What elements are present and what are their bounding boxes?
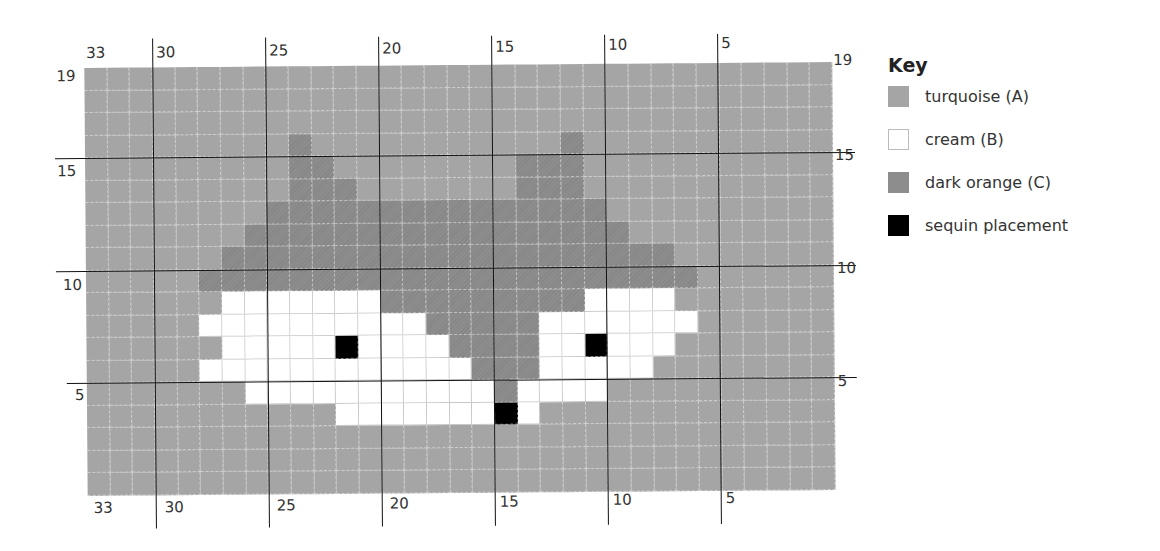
chart-cell: [787, 62, 810, 85]
chart-cell: [494, 290, 517, 313]
chart-cell: [178, 427, 201, 450]
chart-cell: [266, 134, 289, 157]
chart-cell: [200, 337, 223, 360]
chart-cell: [426, 223, 449, 246]
chart-cell: [427, 448, 450, 471]
chart-cell: [152, 67, 175, 90]
chart-cell: [155, 360, 178, 383]
chart-cell: [336, 404, 359, 427]
col-label-top-10: 10: [608, 38, 627, 53]
chart-cell: [584, 176, 607, 199]
chart-cell: [608, 334, 631, 357]
chart-cell: [154, 338, 177, 361]
chart-cell: [811, 220, 834, 243]
chart-cell: [402, 88, 425, 111]
chart-cell: [223, 360, 246, 383]
chart-cell: [742, 130, 765, 153]
chart-cell: [108, 158, 131, 181]
chart-cell: [698, 266, 721, 289]
chart-cell: [130, 112, 153, 135]
chart-cell: [517, 335, 540, 358]
col-label-bottom-33: 33: [94, 501, 113, 516]
chart-cell: [790, 400, 813, 423]
chart-cell: [246, 427, 269, 450]
chart-cell: [767, 468, 790, 491]
chart-cell: [721, 311, 744, 334]
chart-cell: [788, 152, 811, 175]
chart-cell: [404, 313, 427, 336]
chart-cell: [743, 288, 766, 311]
chart-cell: [449, 268, 472, 291]
chart-cell: [812, 332, 835, 355]
chart-cell: [787, 107, 810, 130]
chart-cell: [540, 357, 563, 380]
chart-cell: [743, 243, 766, 266]
chart-cell: [653, 356, 676, 379]
chart-cell: [472, 358, 495, 381]
chart-cell: [87, 383, 110, 406]
chart-cell: [722, 446, 745, 469]
chart-cell: [608, 424, 631, 447]
chart-cell: [630, 311, 653, 334]
chart-cell: [357, 201, 380, 224]
chart-cell: [132, 360, 155, 383]
chart-cell: [721, 378, 744, 401]
chart-cell: [313, 314, 336, 337]
chart-cell: [313, 269, 336, 292]
chart-cell: [696, 63, 719, 86]
chart-cell: [88, 473, 111, 496]
chart-cell: [87, 361, 110, 384]
chart-cell: [811, 175, 834, 198]
chart-cell: [790, 468, 813, 491]
chart-cell: [516, 177, 539, 200]
chart-cell: [699, 401, 722, 424]
chart-cell: [380, 223, 403, 246]
chart-cell: [336, 359, 359, 382]
chart-cell: [335, 291, 358, 314]
chart-cell: [132, 428, 155, 451]
chart-cell: [540, 402, 563, 425]
chart-cell: [358, 268, 381, 291]
chart-cell: [810, 152, 833, 175]
chart-cell: [812, 400, 835, 423]
chart-cell: [675, 243, 698, 266]
chart-cell: [289, 179, 312, 202]
chart-cell: [130, 90, 153, 113]
chart-cell: [539, 222, 562, 245]
row-label-left-15: 15: [57, 164, 76, 179]
chart-cell: [494, 335, 517, 358]
chart-cell: [427, 380, 450, 403]
chart-cell: [86, 316, 109, 339]
chart-cell: [312, 179, 335, 202]
chart-cell: [84, 90, 107, 113]
chart-cell: [155, 450, 178, 473]
chart-cell: [449, 290, 472, 313]
chart-cell: [787, 85, 810, 108]
chart-cell: [246, 449, 269, 472]
chart-cell: [583, 131, 606, 154]
chart-cell: [743, 265, 766, 288]
chart-cell: [153, 157, 176, 180]
chart-grid: [84, 62, 835, 496]
chart-cell: [719, 63, 742, 86]
chart-cell: [427, 358, 450, 381]
chart-cell: [561, 199, 584, 222]
chart-cell: [266, 156, 289, 179]
chart-cell: [358, 223, 381, 246]
chart-cell: [404, 381, 427, 404]
chart-cell: [130, 135, 153, 158]
chart-cell: [313, 336, 336, 359]
chart-cell: [742, 85, 765, 108]
chart-cell: [132, 405, 155, 428]
chart-cell: [677, 446, 700, 469]
chart-cell: [721, 356, 744, 379]
chart-cell: [402, 110, 425, 133]
chart-cell: [675, 176, 698, 199]
chart-cell: [87, 406, 110, 429]
chart-cell: [766, 333, 789, 356]
chart-cell: [359, 404, 382, 427]
chart-cell: [538, 87, 561, 110]
chart-cell: [291, 359, 314, 382]
chart-cell: [788, 175, 811, 198]
chart-cell: [176, 202, 199, 225]
